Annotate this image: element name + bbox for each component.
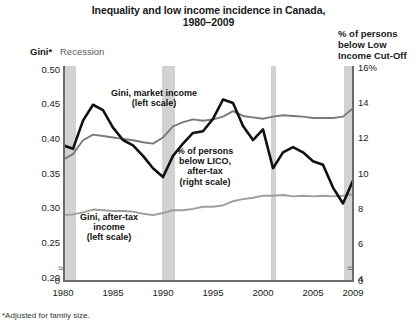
x-tick: 2005: [293, 288, 333, 298]
annotation-gini-market-line-1: Gini, market income: [96, 88, 212, 98]
y-axis-right-ticks: 16%1412108640: [358, 0, 398, 324]
right-axis-break-icon: ≈: [347, 264, 353, 272]
annotation-lico-line-2: below LICO,: [158, 156, 252, 166]
y-tick-left: 0: [26, 276, 60, 286]
annotation-lico: % of persons below LICO, after-tax (righ…: [158, 146, 252, 187]
y-tick-right: 14: [358, 98, 394, 108]
recession-band: [271, 66, 276, 281]
x-tick: 1985: [93, 288, 133, 298]
chart-title: Inequality and low income incidence in C…: [0, 4, 417, 28]
y-tick-left: 0.25: [26, 238, 60, 248]
y-tick-left: 0.45: [26, 99, 60, 109]
x-axis-line: [63, 280, 354, 282]
y-tick-right: 0: [358, 276, 394, 286]
y-axis-left-line: [63, 66, 65, 281]
annotation-lico-line-4: (right scale): [158, 177, 252, 187]
annotation-gini-market: Gini, market income (left scale): [96, 88, 212, 108]
annotation-lico-line-3: after-tax: [158, 166, 252, 176]
annotation-gini-aftertax-line-2: income: [56, 222, 162, 232]
left-axis-break-icon: ≈: [58, 264, 64, 272]
y-axis-right-line: [352, 66, 354, 281]
x-tick: 1980: [43, 288, 83, 298]
y-tick-right: 8: [358, 204, 394, 214]
y-tick-left: 0.40: [26, 134, 60, 144]
chart-figure: Inequality and low income incidence in C…: [0, 0, 417, 324]
footnote: *Adjusted for family size.: [2, 311, 90, 320]
chart-title-line-1: Inequality and low income incidence in C…: [92, 4, 325, 16]
y-tick-right: 16%: [358, 63, 394, 73]
annotation-gini-aftertax: Gini, after-tax income (left scale): [56, 212, 162, 243]
y-tick-left: 0.50: [26, 65, 60, 75]
y-tick-right: 6: [358, 239, 394, 249]
recession-band: [63, 66, 76, 281]
y-tick-right: 12: [358, 133, 394, 143]
x-tick: 2000: [243, 288, 283, 298]
x-tick: 1995: [193, 288, 233, 298]
y-tick-right: 10: [358, 169, 394, 179]
x-tick: 1990: [143, 288, 183, 298]
annotation-gini-aftertax-line-3: (left scale): [56, 232, 162, 242]
annotation-gini-market-line-2: (left scale): [96, 98, 212, 108]
recession-label: Recession: [60, 46, 104, 57]
x-tick: 2009: [333, 288, 373, 298]
chart-title-line-2: 1980–2009: [0, 16, 417, 28]
y-axis-left-ticks: 0.500.450.400.350.300.250.200: [24, 0, 60, 324]
annotation-gini-aftertax-line-1: Gini, after-tax: [56, 212, 162, 222]
y-tick-left: 0.35: [26, 169, 60, 179]
annotation-lico-line-1: % of persons: [158, 146, 252, 156]
y-tick-left: 0.30: [26, 203, 60, 213]
